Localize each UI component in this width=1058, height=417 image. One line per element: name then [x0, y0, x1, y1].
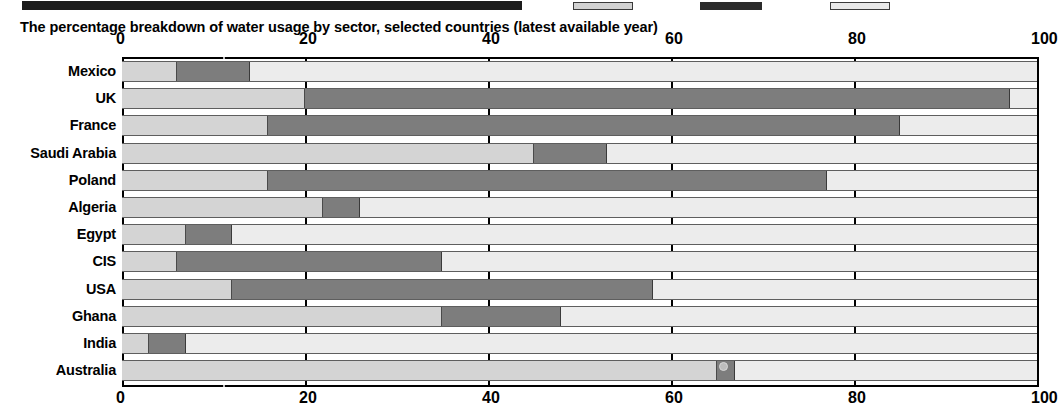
stacked-bar: [122, 333, 1037, 354]
segment-domestic: [122, 89, 305, 108]
segment-domestic: [122, 361, 717, 380]
segment-agriculture: [250, 62, 1037, 81]
segment-domestic: [122, 307, 442, 326]
segment-industry: [268, 116, 899, 135]
segment-agriculture: [653, 280, 1037, 299]
segment-domestic: [122, 171, 268, 190]
segment-industry: [305, 89, 1010, 108]
segment-agriculture: [1010, 89, 1037, 108]
y-axis-labels: MexicoUKFranceSaudi ArabiaPolandAlgeriaE…: [0, 57, 116, 387]
y-axis-label-poland: Poland: [4, 172, 116, 188]
x-tick-60-bottom: 60: [665, 389, 683, 407]
y-axis-label-usa: USA: [4, 281, 116, 297]
industry-swatch: [700, 2, 762, 10]
plot-area: [122, 57, 1037, 387]
header-rule: [22, 1, 522, 10]
segment-agriculture: [561, 307, 1037, 326]
segment-domestic: [122, 62, 177, 81]
y-axis-label-uk: UK: [4, 90, 116, 106]
x-axis-bottom: 020406080100: [0, 389, 1025, 413]
domestic-swatch: [573, 2, 633, 10]
stacked-bar: [122, 61, 1037, 82]
x-tick-20-bottom: 20: [299, 389, 317, 407]
stacked-bar: [122, 170, 1037, 191]
stacked-bar: [122, 306, 1037, 327]
stacked-bar: [122, 279, 1037, 300]
stacked-bar: [122, 197, 1037, 218]
segment-agriculture: [186, 334, 1037, 353]
segment-domestic: [122, 252, 177, 271]
y-axis-label-cis: CIS: [4, 253, 116, 269]
segment-agriculture: [735, 361, 1037, 380]
y-axis-label-algeria: Algeria: [4, 199, 116, 215]
plot-top-rule: [122, 57, 1037, 59]
agriculture-swatch: [830, 2, 890, 10]
y-axis-label-egypt: Egypt: [4, 226, 116, 242]
segment-domestic: [122, 334, 149, 353]
x-tick-40-bottom: 40: [482, 389, 500, 407]
segment-domestic: [122, 144, 534, 163]
stacked-bar: [122, 224, 1037, 245]
segment-industry: [442, 307, 561, 326]
segment-industry: [186, 225, 232, 244]
print-artifact: [719, 362, 728, 371]
x-tick-0-bottom: 0: [116, 389, 125, 407]
stacked-bar: [122, 143, 1037, 164]
gridline-100: [1037, 57, 1039, 387]
x-tick-100-bottom: 100: [1031, 389, 1058, 407]
y-axis-label-france: France: [4, 117, 116, 133]
stacked-bar: [122, 251, 1037, 272]
x-tick-80-top: 80: [848, 30, 866, 48]
segment-agriculture: [607, 144, 1037, 163]
y-axis-label-saudi-arabia: Saudi Arabia: [4, 145, 116, 161]
x-tick-0-top: 0: [116, 30, 125, 48]
segment-domestic: [122, 116, 268, 135]
stacked-bar: [122, 115, 1037, 136]
plot-bottom-rule: [122, 385, 1037, 387]
segment-industry: [232, 280, 653, 299]
y-axis-label-mexico: Mexico: [4, 63, 116, 79]
segment-agriculture: [232, 225, 1037, 244]
segment-agriculture: [360, 198, 1037, 217]
segment-domestic: [122, 225, 186, 244]
legend-strip: [0, 0, 1025, 14]
segment-agriculture: [900, 116, 1037, 135]
segment-industry: [149, 334, 186, 353]
x-tick-60-top: 60: [665, 30, 683, 48]
y-axis-label-india: India: [4, 335, 116, 351]
segment-domestic: [122, 198, 323, 217]
stacked-bar: [122, 360, 1037, 381]
segment-industry: [177, 62, 250, 81]
segment-industry: [268, 171, 826, 190]
segment-agriculture: [827, 171, 1037, 190]
stacked-bar: [122, 88, 1037, 109]
segment-industry: [177, 252, 442, 271]
segment-industry: [323, 198, 360, 217]
x-tick-80-bottom: 80: [848, 389, 866, 407]
x-tick-40-top: 40: [482, 30, 500, 48]
segment-agriculture: [442, 252, 1037, 271]
segment-industry: [534, 144, 607, 163]
y-axis-label-ghana: Ghana: [4, 308, 116, 324]
x-tick-100-top: 100: [1031, 30, 1058, 48]
x-axis-top: 020406080100: [0, 30, 1025, 52]
segment-domestic: [122, 280, 232, 299]
y-axis-label-australia: Australia: [4, 362, 116, 378]
x-tick-20-top: 20: [299, 30, 317, 48]
